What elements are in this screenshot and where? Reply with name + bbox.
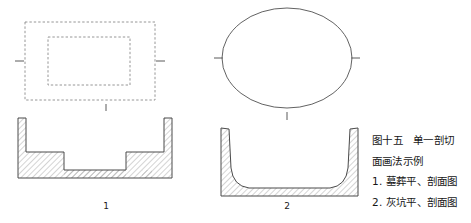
caption-title-line-2: 面画法示例 bbox=[372, 151, 471, 172]
ashpit-figure-number: 2 bbox=[280, 201, 294, 211]
figure-caption: 图十五 单一剖切 面画法示例 1. 墓葬平、剖面图 2. 灰坑平、剖面图 bbox=[372, 130, 471, 212]
figure-container: 1 2 图十五 单一剖切 面画法示例 1. 墓葬平、剖面图 2. 灰坑平、剖面图 bbox=[0, 0, 471, 223]
section-cut-markers bbox=[106, 104, 287, 120]
ashpit-section-group bbox=[210, 120, 370, 205]
caption-item-1: 1. 墓葬平、剖面图 bbox=[372, 171, 471, 192]
tomb-plan-inner-rect bbox=[48, 37, 130, 85]
tomb-section-hatch-floor bbox=[64, 170, 126, 178]
tomb-section-group bbox=[10, 110, 180, 190]
caption-item-2: 2. 灰坑平、剖面图 bbox=[372, 192, 471, 213]
ashpit-plan-circle bbox=[222, 8, 352, 108]
tomb-plan-group bbox=[15, 22, 165, 100]
ashpit-plan-group bbox=[214, 8, 360, 108]
caption-title-line-1: 图十五 单一剖切 bbox=[372, 130, 471, 151]
tomb-figure-number: 1 bbox=[99, 201, 113, 211]
ashpit-section-hatch bbox=[210, 120, 370, 205]
tomb-plan-outer-rect bbox=[25, 22, 155, 100]
ashpit-section-bowl-profile bbox=[229, 129, 350, 188]
